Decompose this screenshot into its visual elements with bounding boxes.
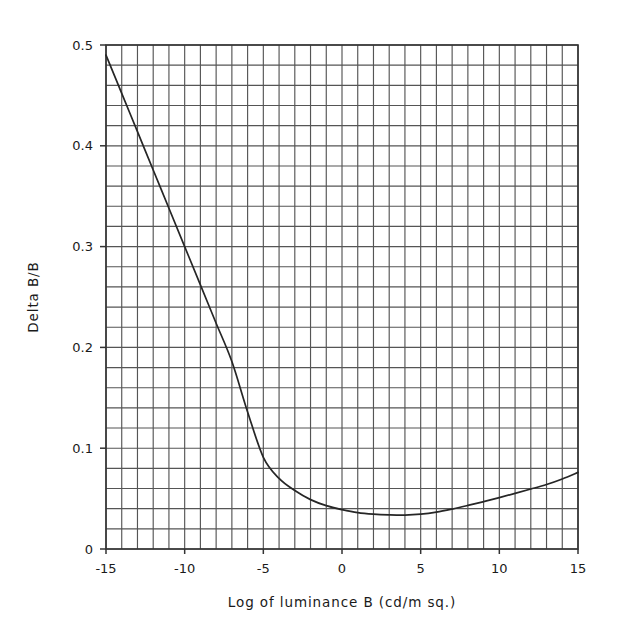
x-tick-label: -15 <box>95 561 116 576</box>
y-axis-tick-labels: 00.10.20.30.40.5 <box>72 38 93 557</box>
y-axis-ticks <box>100 45 106 549</box>
x-tick-label: -10 <box>174 561 195 576</box>
y-tick-label: 0.2 <box>72 340 93 355</box>
line-chart: -15-10-5051015 00.10.20.30.40.5 Log of l… <box>0 0 618 639</box>
x-tick-label: 5 <box>417 561 425 576</box>
y-tick-label: 0.4 <box>72 138 93 153</box>
y-tick-label: 0.3 <box>72 239 93 254</box>
y-tick-label: 0.1 <box>72 441 93 456</box>
y-tick-label: 0 <box>85 542 93 557</box>
x-tick-label: 15 <box>570 561 587 576</box>
x-tick-label: 10 <box>491 561 508 576</box>
x-axis-title: Log of luminance B (cd/m sq.) <box>228 594 456 610</box>
x-tick-label: 0 <box>338 561 346 576</box>
x-tick-label: -5 <box>257 561 270 576</box>
chart-figure: -15-10-5051015 00.10.20.30.40.5 Log of l… <box>0 0 618 639</box>
y-tick-label: 0.5 <box>72 38 93 53</box>
x-axis-tick-labels: -15-10-5051015 <box>95 561 586 576</box>
y-axis-title: Delta B/B <box>25 261 41 332</box>
